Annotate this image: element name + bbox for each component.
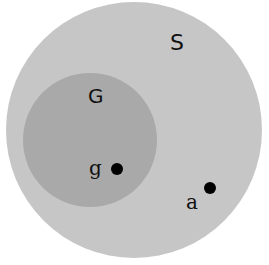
point-a-label: a xyxy=(186,190,198,214)
point-a-dot xyxy=(204,182,216,194)
set-g-label: G xyxy=(88,84,104,108)
set-s-label: S xyxy=(170,30,184,55)
point-g-label: g xyxy=(89,156,102,180)
point-g-dot xyxy=(111,163,123,175)
venn-diagram: S G g a xyxy=(0,0,269,265)
